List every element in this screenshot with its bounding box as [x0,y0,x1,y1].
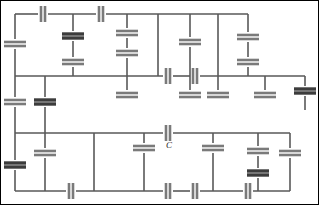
circuit-figure: C [0,0,319,205]
circuit-canvas: C [0,0,319,205]
capacitor-label-c: C [166,140,173,150]
label-layer: C [166,140,173,150]
